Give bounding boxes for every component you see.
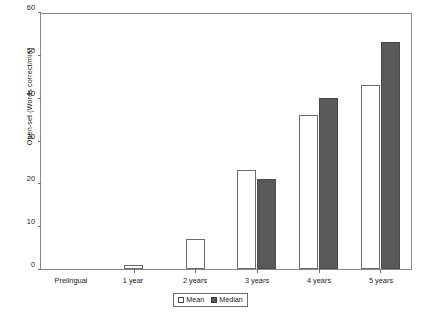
x-axis-labels: Prelingual1 year2 years3 years4 years5 y… bbox=[40, 276, 412, 285]
bar-mean bbox=[186, 239, 205, 269]
x-axis-label: 5 years bbox=[350, 276, 412, 285]
x-axis-label: 4 years bbox=[288, 276, 350, 285]
plot-area: 0102030405060 bbox=[40, 13, 412, 270]
legend-item-mean: Mean bbox=[178, 295, 204, 304]
bar-group bbox=[41, 14, 103, 269]
bar-group bbox=[349, 14, 411, 269]
legend-item-median: Median bbox=[211, 295, 243, 304]
x-axis-label: Prelingual bbox=[40, 276, 102, 285]
legend: MeanMedian bbox=[0, 293, 421, 307]
bar-median bbox=[381, 42, 400, 269]
y-tick-mark bbox=[38, 269, 42, 270]
bar-median bbox=[257, 179, 276, 269]
cut-caption-strip bbox=[0, 316, 421, 324]
x-tick-mark bbox=[257, 269, 258, 273]
bar-group bbox=[288, 14, 350, 269]
bar-mean bbox=[361, 85, 380, 269]
x-axis-label: 3 years bbox=[226, 276, 288, 285]
bar-group bbox=[226, 14, 288, 269]
x-tick-mark bbox=[195, 269, 196, 273]
x-tick-mark bbox=[380, 269, 381, 273]
x-tick-mark bbox=[134, 269, 135, 273]
x-axis-label: 2 years bbox=[164, 276, 226, 285]
x-axis-label: 1 year bbox=[102, 276, 164, 285]
legend-swatch-median-icon bbox=[211, 297, 217, 303]
legend-box: MeanMedian bbox=[173, 293, 248, 307]
bar-group bbox=[103, 14, 165, 269]
bar-chart: Open-set (Words correct/min) 01020304050… bbox=[0, 0, 421, 324]
legend-label: Mean bbox=[186, 295, 204, 304]
bar-mean bbox=[237, 170, 256, 269]
bar-mean bbox=[299, 115, 318, 269]
legend-label: Median bbox=[219, 295, 243, 304]
bar-groups bbox=[41, 14, 411, 269]
y-tick-mark bbox=[38, 12, 42, 13]
legend-swatch-mean-icon bbox=[178, 297, 184, 303]
bar-median bbox=[319, 98, 338, 269]
bar-group bbox=[164, 14, 226, 269]
x-tick-mark bbox=[319, 269, 320, 273]
